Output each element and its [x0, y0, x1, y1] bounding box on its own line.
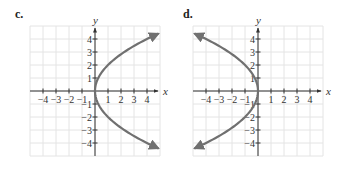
- y-axis-title: y: [255, 14, 261, 26]
- y-tick-label: 4: [87, 34, 92, 45]
- y-tick-label: 3: [87, 47, 92, 58]
- y-tick-label: 2: [87, 60, 92, 71]
- x-tick-label: −2: [227, 94, 238, 105]
- graph-panel-c: c. xy−4−3−2−11234−4−3−2−11234: [0, 0, 171, 169]
- x-tick-label: 3: [295, 94, 300, 105]
- x-tick-label: 4: [145, 94, 150, 105]
- x-tick-label: −3: [214, 94, 225, 105]
- x-tick-label: −4: [38, 94, 49, 105]
- x-tick-label: 3: [132, 94, 137, 105]
- y-tick-label: 4: [250, 34, 255, 45]
- y-tick-label: −3: [244, 125, 255, 136]
- y-tick-label: −4: [244, 138, 255, 149]
- x-tick-label: 2: [282, 94, 287, 105]
- x-tick-label: 1: [269, 94, 274, 105]
- graph-c-svg: xy−4−3−2−11234−4−3−2−11234: [0, 0, 171, 169]
- y-tick-label: −4: [81, 138, 92, 149]
- x-tick-label: 2: [119, 94, 124, 105]
- x-tick-label: −3: [51, 94, 62, 105]
- graph-d-svg: xy−4−3−2−11234−4−3−2−11234: [171, 0, 342, 169]
- y-tick-label: −3: [81, 125, 92, 136]
- y-tick-label: 1: [87, 73, 92, 84]
- y-tick-label: 2: [250, 60, 255, 71]
- y-tick-label: 3: [250, 47, 255, 58]
- x-tick-label: 1: [106, 94, 111, 105]
- y-tick-label: −2: [81, 112, 92, 123]
- x-axis-title: x: [325, 85, 331, 97]
- x-tick-label: −2: [64, 94, 75, 105]
- graph-panel-d: d. xy−4−3−2−11234−4−3−2−11234: [171, 0, 342, 169]
- x-axis-title: x: [162, 85, 168, 97]
- y-tick-label: −1: [81, 99, 92, 110]
- y-axis-title: y: [92, 14, 98, 26]
- x-tick-label: 4: [308, 94, 313, 105]
- x-tick-label: −4: [201, 94, 212, 105]
